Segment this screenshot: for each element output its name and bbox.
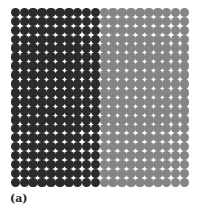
dark-circle bbox=[82, 142, 92, 152]
gray-circle bbox=[171, 142, 181, 152]
gray-circle bbox=[162, 178, 172, 188]
dark-circle bbox=[82, 178, 92, 188]
gray-circle bbox=[180, 8, 190, 18]
dark-circle bbox=[82, 26, 92, 36]
gray-circle bbox=[171, 178, 181, 188]
gray-circle bbox=[180, 26, 190, 36]
gray-circle bbox=[162, 160, 172, 170]
dark-circle bbox=[82, 17, 92, 27]
dark-circle bbox=[82, 8, 92, 18]
dark-circle bbox=[11, 17, 21, 27]
dark-circle bbox=[82, 151, 92, 161]
dark-circle bbox=[91, 178, 101, 188]
gray-circle bbox=[162, 142, 172, 152]
dark-circle bbox=[82, 169, 92, 179]
gray-circle bbox=[171, 160, 181, 170]
dark-circle bbox=[11, 26, 21, 36]
dark-circle bbox=[11, 8, 21, 18]
gray-circle bbox=[180, 142, 190, 152]
gray-circle bbox=[171, 133, 181, 143]
gray-circle bbox=[180, 17, 190, 27]
gray-circle bbox=[162, 169, 172, 179]
dark-circle bbox=[82, 160, 92, 170]
gray-circle bbox=[180, 178, 190, 188]
figure-label: (a) bbox=[10, 192, 28, 205]
gray-circle bbox=[171, 17, 181, 27]
gray-circle bbox=[180, 169, 190, 179]
gray-circle bbox=[180, 160, 190, 170]
dark-circle bbox=[91, 169, 101, 179]
dark-circle bbox=[11, 169, 21, 179]
gray-circle bbox=[162, 8, 172, 18]
dark-circle bbox=[91, 160, 101, 170]
dark-circle bbox=[91, 142, 101, 152]
circle-grid bbox=[11, 8, 189, 187]
gray-circle bbox=[180, 133, 190, 143]
dark-circle bbox=[11, 142, 21, 152]
gray-circle bbox=[162, 17, 172, 27]
dark-circle bbox=[91, 133, 101, 143]
dark-circle bbox=[91, 151, 101, 161]
dark-circle bbox=[11, 178, 21, 188]
dark-circle bbox=[11, 160, 21, 170]
dark-circle bbox=[91, 8, 101, 18]
dark-circle bbox=[91, 26, 101, 36]
gray-circle bbox=[171, 169, 181, 179]
gray-circle bbox=[171, 26, 181, 36]
dark-circle bbox=[11, 133, 21, 143]
dark-circle bbox=[11, 151, 21, 161]
dark-circle bbox=[82, 133, 92, 143]
gray-circle bbox=[162, 133, 172, 143]
gray-circle bbox=[171, 151, 181, 161]
gray-circle bbox=[171, 8, 181, 18]
gray-circle bbox=[180, 151, 190, 161]
gray-circle bbox=[162, 26, 172, 36]
gray-circle bbox=[162, 151, 172, 161]
dark-circle bbox=[91, 17, 101, 27]
